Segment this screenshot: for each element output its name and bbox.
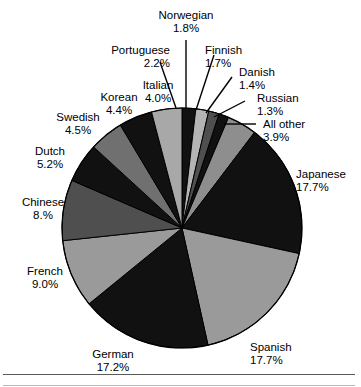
slice-label-portuguese-value: 2.2% — [78, 57, 170, 70]
slice-label-german-name: German — [78, 348, 148, 361]
slice-label-italian: Italian 4.0% — [130, 79, 186, 105]
slice-label-russian-value: 1.3% — [257, 105, 337, 118]
leader-line-danish — [206, 77, 232, 113]
slice-label-all-other: All other 3.9% — [263, 118, 345, 144]
footer-divider-shadow — [3, 385, 355, 386]
slice-label-all-other-name: All other — [263, 118, 345, 131]
slice-label-norwegian-name: Norwegian — [128, 9, 244, 22]
slice-label-french-name: French — [14, 265, 76, 278]
slice-label-italian-name: Italian — [130, 79, 186, 92]
slice-label-norwegian-value: 1.8% — [128, 22, 244, 35]
slice-label-swedish-value: 4.5% — [44, 124, 112, 137]
slice-label-spanish: Spanish 17.7% — [250, 341, 320, 367]
slice-label-german: German 17.2% — [78, 348, 148, 374]
slice-label-danish: Danish 1.4% — [239, 66, 311, 92]
slice-label-korean-value: 4.4% — [86, 104, 152, 117]
slice-label-portuguese-name: Portuguese — [78, 44, 170, 57]
slice-label-danish-name: Danish — [239, 66, 311, 79]
slice-label-japanese-value: 17.7% — [296, 181, 360, 194]
slice-label-all-other-value: 3.9% — [263, 131, 345, 144]
slice-label-italian-value: 4.0% — [130, 92, 186, 105]
slice-label-dutch-value: 5.2% — [22, 158, 78, 171]
footer-divider — [3, 374, 355, 375]
slice-label-finnish-name: Finnish — [205, 44, 277, 57]
slice-label-dutch: Dutch 5.2% — [22, 145, 78, 171]
slice-label-portuguese: Portuguese 2.2% — [78, 44, 170, 70]
slice-label-russian-name: Russian — [257, 92, 337, 105]
slice-label-spanish-name: Spanish — [250, 341, 320, 354]
slice-label-russian: Russian 1.3% — [257, 92, 337, 118]
slice-label-norwegian: Norwegian 1.8% — [128, 9, 244, 35]
slice-label-japanese-name: Japanese — [296, 168, 360, 181]
slice-label-french: French 9.0% — [14, 265, 76, 291]
slice-label-chinese: Chinese 8.% — [10, 196, 76, 222]
slice-label-french-value: 9.0% — [14, 278, 76, 291]
slice-label-spanish-value: 17.7% — [250, 354, 320, 367]
slice-label-german-value: 17.2% — [78, 361, 148, 374]
pie-slices-group — [62, 108, 302, 348]
slice-label-chinese-value: 8.% — [10, 209, 76, 222]
pie-chart-figure: Norwegian 1.8% Portuguese 2.2% Finnish 1… — [0, 0, 361, 387]
slice-label-dutch-name: Dutch — [22, 145, 78, 158]
slice-label-chinese-name: Chinese — [10, 196, 76, 209]
leader-line-russian — [214, 101, 245, 117]
slice-label-japanese: Japanese 17.7% — [296, 168, 360, 194]
slice-label-danish-value: 1.4% — [239, 79, 311, 92]
